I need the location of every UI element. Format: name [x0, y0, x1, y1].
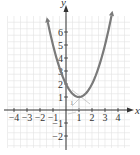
x-tick-label: 3 [103, 112, 108, 123]
x-tick-label: 4 [116, 112, 121, 123]
y-tick-label: −2 [52, 131, 63, 142]
parabola-graph: −4−3−2−11234−2−1123456 x y 1 [0, 0, 140, 155]
x-tick-label: 1 [77, 112, 82, 123]
y-tick-label: 2 [58, 79, 63, 90]
y-tick-label: 1 [58, 92, 63, 103]
x-tick-label: −3 [22, 112, 33, 123]
x-axis-arrow-icon [127, 108, 134, 113]
x-tick-label: −4 [9, 112, 20, 123]
y-tick-label: 5 [58, 40, 63, 51]
x-axis-label: x [134, 104, 140, 116]
x-tick-label: −2 [35, 112, 46, 123]
y-tick-label: −1 [52, 118, 63, 129]
y-axis-label: y [60, 0, 66, 8]
axes [4, 5, 134, 150]
grid-lines [8, 16, 131, 148]
curve-arrow-left-icon [45, 17, 50, 22]
curve-arrow-right-icon [109, 11, 114, 16]
x-tick-label: 2 [90, 112, 95, 123]
vertex-mark-label: 1 [70, 99, 74, 107]
y-tick-label: 6 [58, 27, 63, 38]
